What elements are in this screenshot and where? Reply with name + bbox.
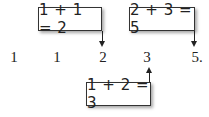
equation-text: 2 + 3 = 5 [130, 1, 194, 37]
equation-box-1-plus-2: 1 + 2 = 3 [86, 82, 151, 106]
sequence-number: 1 [10, 49, 18, 66]
equation-text: 1 + 1 = 2 [39, 1, 101, 37]
arrow-down-icon [99, 41, 105, 47]
equation-box-2-plus-3: 2 + 3 = 5 [129, 7, 195, 31]
fibonacci-diagram: 1 + 1 = 2 2 + 3 = 5 1 1 2 3 5. 1 + 2 = 3 [0, 0, 209, 117]
arrow-down-icon [191, 41, 197, 47]
equation-text: 1 + 2 = 3 [87, 76, 150, 112]
sequence-number: 2 [99, 49, 107, 66]
sequence-number: 1 [53, 49, 61, 66]
sequence-number: 5. [191, 49, 202, 66]
equation-box-1-plus-1: 1 + 1 = 2 [38, 7, 102, 31]
sequence-number: 3 [143, 49, 151, 66]
